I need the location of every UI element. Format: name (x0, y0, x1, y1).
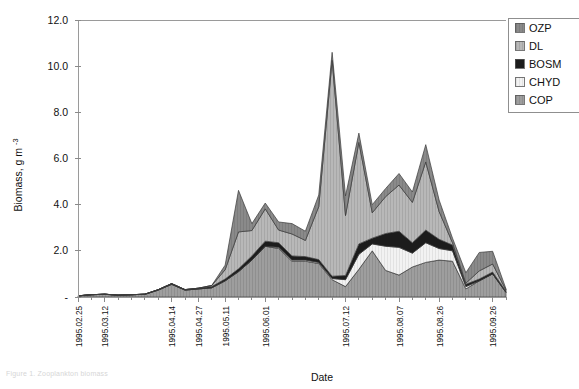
y-tick-label: 4.0 (53, 198, 68, 210)
legend-label-cop: COP (529, 94, 553, 106)
y-axis-title: Biomass, g m -3 (11, 138, 24, 211)
y-axis-title-exponent: -3 (11, 138, 20, 145)
y-tick-label: 10.0 (48, 60, 69, 72)
legend-swatch-chyd (515, 77, 524, 86)
legend-swatch-dl (515, 41, 524, 50)
legend-label-bosm: BOSM (529, 58, 561, 70)
legend-label-dl: DL (529, 40, 543, 52)
legend-label-chyd: CHYD (529, 76, 560, 88)
x-axis-title: Date (311, 371, 333, 383)
legend-label-ozp: OZP (529, 22, 552, 34)
x-tick-label: 1995.08.07 (396, 306, 405, 347)
figure-root: -2.04.06.08.010.012.0 1995.02.251995.03.… (0, 0, 579, 389)
y-axis-title-text: Biomass, g m (12, 145, 24, 212)
chart-legend: OZPDLBOSMCHYDCOP (508, 18, 579, 112)
x-tick-label: 1995.04.27 (195, 306, 204, 347)
x-tick-label: 1995.06.01 (262, 306, 271, 347)
x-tick-label: 1995.08.26 (436, 306, 445, 347)
svg-text:Biomass, g m -3: Biomass, g m -3 (11, 138, 24, 211)
figure-caption: Figure 1. Zooplankton biomass (6, 370, 108, 377)
y-tick-label: 8.0 (53, 106, 68, 118)
legend-swatch-cop (515, 95, 524, 104)
y-tick-label: - (65, 291, 69, 303)
x-tick-label: 1995.09.26 (489, 306, 498, 347)
y-tick-label: 6.0 (53, 152, 68, 164)
y-tick-label: 12.0 (48, 14, 69, 26)
biomass-stacked-area-chart: -2.04.06.08.010.012.0 1995.02.251995.03.… (0, 0, 579, 389)
x-tick-label: 1995.04.14 (168, 306, 177, 347)
x-tick-label: 1995.05.11 (222, 306, 231, 347)
x-tick-label: 1995.02.25 (75, 306, 84, 347)
legend-swatch-bosm (515, 59, 524, 68)
x-tick-label: 1995.03.12 (101, 306, 110, 347)
y-tick-label: 2.0 (53, 244, 68, 256)
x-tick-label: 1995.07.12 (342, 306, 351, 347)
legend-swatch-ozp (515, 23, 524, 32)
